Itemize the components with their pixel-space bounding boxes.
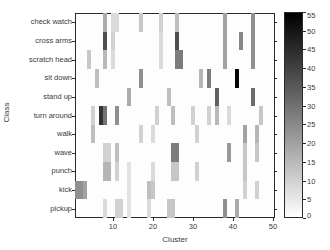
y-tick-label: scratch head (29, 56, 72, 64)
x-tick-mark (193, 218, 194, 221)
colorbar-tick-label: 10 (307, 176, 315, 185)
heatmap-cell (111, 50, 115, 69)
heatmap-cell (167, 88, 171, 107)
heatmap-cell (115, 13, 119, 32)
y-tick-mark (274, 171, 277, 172)
x-tick-mark (153, 218, 154, 221)
heatmap-cell (251, 88, 255, 107)
heatmap-cell (171, 199, 175, 218)
heatmap-cell (243, 181, 247, 200)
colorbar-tick-mark (303, 162, 306, 163)
y-tick-mark (274, 60, 277, 61)
heatmap-cell (235, 69, 239, 88)
y-tick-mark (72, 116, 75, 117)
heatmap-cell (239, 32, 243, 51)
heatmap-cell (139, 125, 143, 144)
heatmap-cell (223, 32, 227, 51)
y-tick-label: stand up (43, 93, 72, 101)
heatmap-cell (251, 32, 255, 51)
heatmap-cell (191, 106, 195, 125)
colorbar-tick-label: 5 (307, 195, 311, 204)
y-tick-mark (72, 41, 75, 42)
heatmap-cell (175, 143, 179, 162)
heatmap-cell (195, 162, 199, 181)
y-tick-mark (274, 190, 277, 191)
heatmap-cell (103, 199, 107, 218)
heatmap-cell (103, 13, 107, 32)
y-tick-mark (72, 97, 75, 98)
heatmap-cell (151, 162, 155, 181)
heatmap-cell (223, 13, 227, 32)
heatmap-cell (107, 143, 111, 162)
heatmap-cell (175, 32, 179, 51)
y-tick-mark (72, 153, 75, 154)
colorbar-tick-mark (303, 87, 306, 88)
heatmap-cell (91, 125, 95, 144)
heatmap-cell (87, 50, 91, 69)
y-tick-mark (72, 78, 75, 79)
y-tick-mark (72, 171, 75, 172)
y-tick-label: wave (54, 149, 72, 157)
heatmap-cell (255, 125, 259, 144)
heatmap-cell (155, 106, 159, 125)
y-tick-label: turn around (34, 112, 72, 120)
heatmap-cell (175, 162, 179, 181)
heatmap-cell (179, 50, 183, 69)
heatmap-cell (115, 143, 119, 162)
y-tick-label: pickup (50, 205, 72, 213)
heatmap-cell (103, 32, 107, 51)
x-tick-mark (273, 218, 274, 221)
heatmap-cell (95, 69, 99, 88)
heatmap-cell (147, 199, 151, 218)
colorbar (284, 12, 303, 218)
heatmap-cell (91, 106, 95, 125)
colorbar-tick-mark (303, 124, 306, 125)
y-tick-mark (274, 209, 277, 210)
heatmap-cell (159, 32, 163, 51)
heatmap-cell (207, 69, 211, 88)
heatmap-cell (251, 50, 255, 69)
heatmap-cell (243, 143, 247, 162)
y-tick-mark (274, 78, 277, 79)
x-tick-label: 40 (229, 222, 237, 231)
y-tick-mark (274, 22, 277, 23)
heatmap-cell (115, 106, 119, 125)
heatmap-cell (175, 13, 179, 32)
heatmap-cell (151, 181, 155, 200)
colorbar-tick-mark (303, 68, 306, 69)
y-tick-label: cross arms (35, 37, 72, 45)
y-tick-label: kick (59, 186, 72, 194)
y-tick-mark (72, 209, 75, 210)
heatmap-cell (127, 181, 131, 200)
colorbar-tick-label: 20 (307, 139, 315, 148)
heatmap-cell (255, 181, 259, 200)
colorbar-tick-mark (303, 31, 306, 32)
colorbar-tick-mark (303, 199, 306, 200)
colorbar-tick-mark (303, 49, 306, 50)
y-tick-mark (72, 60, 75, 61)
colorbar-tick-mark (303, 143, 306, 144)
heatmap-cell (171, 106, 175, 125)
heatmap-cell (207, 106, 211, 125)
y-tick-label: check watch (31, 18, 72, 26)
x-tick-label: 50 (269, 222, 277, 231)
heatmap-cell (251, 13, 255, 32)
y-tick-label: sit down (44, 74, 72, 82)
x-tick-label: 10 (109, 222, 117, 231)
y-tick-label: punch (52, 167, 72, 175)
plot-area (75, 13, 275, 218)
colorbar-tick-label: 25 (307, 120, 315, 129)
heatmap-cell (139, 69, 143, 88)
heatmap-cell (215, 106, 219, 125)
y-tick-mark (274, 134, 277, 135)
x-tick-mark (233, 218, 234, 221)
heatmap-cell (195, 125, 199, 144)
y-tick-mark (274, 97, 277, 98)
heatmap-cell (103, 50, 107, 69)
colorbar-tick-label: 40 (307, 64, 315, 73)
heatmap-cell (103, 106, 107, 125)
heatmap-cell (215, 88, 219, 107)
y-tick-label: walk (57, 130, 72, 138)
x-tick-label: 30 (189, 222, 197, 231)
heatmap-cell (259, 106, 263, 125)
